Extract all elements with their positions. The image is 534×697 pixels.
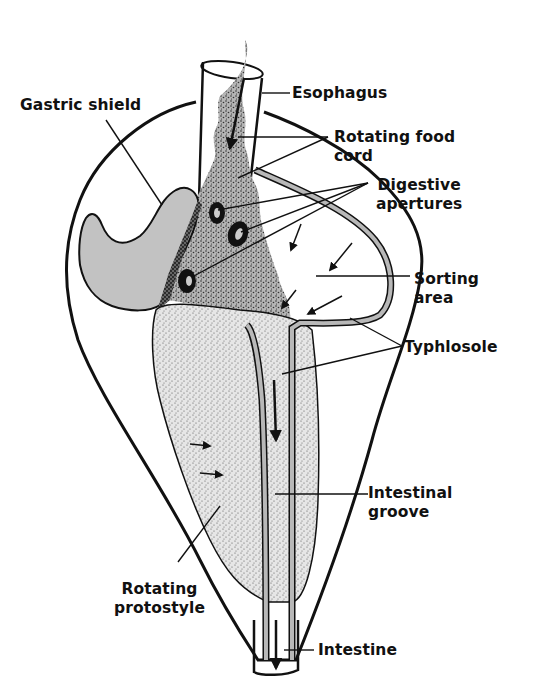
label-sorting-area: Sorting area: [414, 270, 479, 308]
sorting-arrow-1: [291, 224, 301, 250]
label-intestine: Intestine: [318, 641, 397, 660]
label-line: Intestinal: [368, 484, 452, 503]
label-line: Intestine: [318, 641, 397, 660]
label-line: Rotating food: [334, 128, 455, 147]
label-line: area: [414, 289, 479, 308]
sorting-arrow-4: [308, 296, 342, 314]
aperture-3-core: [186, 276, 192, 286]
esophagus-opening: [200, 58, 264, 82]
label-digestive-apertures: Digestive apertures: [376, 176, 462, 214]
label-intestinal-groove: Intestinal groove: [368, 484, 452, 522]
label-line: protostyle: [114, 599, 205, 618]
label-line: Gastric shield: [20, 96, 141, 115]
label-line: apertures: [376, 195, 462, 214]
label-rotating-food-cord: Rotating food cord: [334, 128, 455, 166]
label-line: Rotating: [114, 580, 205, 599]
sorting-arrow-2: [330, 243, 352, 270]
label-esophagus: Esophagus: [292, 84, 387, 103]
label-typhlosole: Typhlosole: [404, 338, 498, 357]
label-gastric-shield: Gastric shield: [20, 96, 141, 115]
label-rotating-protostyle: Rotating protostyle: [114, 580, 205, 618]
label-line: Esophagus: [292, 84, 387, 103]
label-line: Typhlosole: [404, 338, 498, 357]
label-line: Digestive: [376, 176, 462, 195]
label-line: Sorting: [414, 270, 479, 289]
label-line: groove: [368, 503, 452, 522]
label-line: cord: [334, 147, 455, 166]
